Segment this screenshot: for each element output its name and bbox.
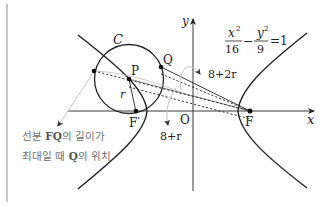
label-y-axis: y — [181, 14, 189, 28]
svg-text:=1: =1 — [270, 34, 288, 48]
point-F-prime — [134, 109, 139, 114]
label-r: r — [120, 88, 126, 101]
radius-segment — [129, 79, 136, 112]
svg-text:9: 9 — [257, 43, 264, 56]
annotation-note: 선분 FQ의 길이가 최대일 때 Q의 위치 — [22, 130, 111, 163]
label-8-plus-2r: 8+2r — [208, 68, 237, 81]
segment-QF — [161, 67, 250, 111]
svg-text:2: 2 — [264, 25, 268, 33]
label-origin: O — [180, 113, 190, 127]
label-circle-c: C — [113, 32, 123, 47]
svg-text:y: y — [256, 26, 264, 40]
segment-PF — [129, 79, 250, 111]
svg-text:2: 2 — [236, 25, 240, 33]
svg-text:−: − — [243, 34, 253, 48]
label-F: F — [245, 115, 253, 129]
hyperbola-equation: x 2 16 − y 2 9 =1 — [225, 25, 288, 56]
svg-text:x: x — [228, 26, 235, 40]
label-P: P — [131, 64, 139, 78]
point-left-extreme — [92, 69, 97, 74]
hyperbola-circle-diagram: C P Q r F′ F O x y 8+2r 8+r x 2 16 − y 2… — [0, 0, 333, 207]
label-x-axis: x — [307, 112, 315, 127]
label-8-plus-r: 8+r — [160, 130, 182, 143]
leader-annotation — [58, 73, 93, 126]
point-F — [248, 109, 253, 114]
dotted-mid-to-F — [161, 74, 250, 111]
svg-text:최대일 때 Q의 위치: 최대일 때 Q의 위치 — [22, 150, 111, 163]
label-Q: Q — [163, 53, 173, 67]
svg-text:16: 16 — [225, 43, 239, 56]
label-F-prime: F′ — [129, 116, 140, 130]
svg-text:선분 FQ의 길이가: 선분 FQ의 길이가 — [22, 130, 105, 143]
leader-8-r — [167, 88, 176, 125]
